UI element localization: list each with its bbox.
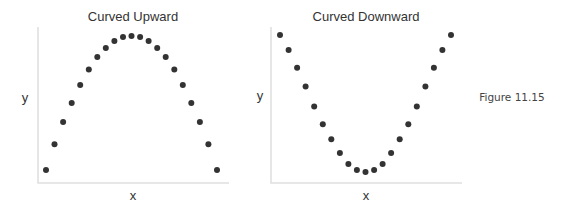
data-point	[43, 167, 49, 173]
chart-curved-downward: Curved Downward y x	[257, 9, 462, 203]
chart-curved-upward: Curved Upward y x	[22, 9, 229, 203]
x-axis-label: x	[130, 188, 137, 203]
figure-caption: Figure 11.15	[479, 91, 544, 103]
data-points	[277, 32, 454, 175]
data-points	[43, 33, 220, 173]
data-point	[286, 47, 292, 53]
data-point	[345, 161, 351, 167]
data-point	[294, 65, 300, 71]
data-point	[303, 84, 309, 90]
data-point	[163, 54, 169, 60]
data-point	[405, 121, 411, 127]
data-point	[431, 65, 437, 71]
data-point	[180, 82, 186, 88]
data-point	[371, 167, 377, 173]
data-point	[439, 47, 445, 53]
data-point	[214, 167, 220, 173]
data-point	[103, 45, 109, 51]
data-point	[320, 121, 326, 127]
data-point	[120, 34, 126, 40]
data-point	[197, 119, 203, 125]
data-point	[111, 38, 117, 44]
data-point	[397, 136, 403, 142]
data-point	[146, 38, 152, 44]
y-axis-label: y	[22, 90, 29, 105]
data-point	[422, 84, 428, 90]
data-point	[205, 141, 211, 147]
data-point	[52, 141, 58, 147]
figure-canvas: Curved Upward y x Curved Downward y x Fi…	[0, 0, 563, 212]
data-point	[60, 119, 66, 125]
data-point	[328, 136, 334, 142]
data-point	[380, 161, 386, 167]
data-point	[414, 104, 420, 110]
data-point	[77, 82, 83, 88]
data-point	[69, 100, 75, 106]
data-point	[94, 54, 100, 60]
data-point	[129, 33, 135, 39]
data-point	[188, 100, 194, 106]
data-point	[86, 67, 92, 73]
data-point	[337, 150, 343, 156]
data-point	[363, 169, 369, 175]
data-point	[137, 34, 143, 40]
chart-title: Curved Upward	[88, 9, 178, 24]
chart-title: Curved Downward	[313, 9, 420, 24]
data-point	[277, 32, 283, 38]
y-axis-label: y	[257, 88, 264, 103]
chart-axes	[38, 27, 229, 183]
data-point	[448, 32, 454, 38]
chart-axes	[271, 27, 462, 183]
data-point	[354, 167, 360, 173]
data-point	[154, 45, 160, 51]
data-point	[311, 104, 317, 110]
data-point	[388, 150, 394, 156]
data-point	[171, 67, 177, 73]
x-axis-label: x	[363, 188, 370, 203]
